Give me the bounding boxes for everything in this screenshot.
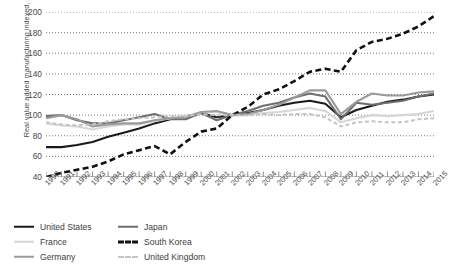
legend-item[interactable]: United States bbox=[14, 219, 122, 234]
legend-label: Germany bbox=[40, 252, 75, 262]
legend-label: United States bbox=[40, 222, 92, 232]
x-axis-tick: 1995 bbox=[120, 169, 138, 187]
legend-item[interactable]: South Korea bbox=[118, 234, 226, 249]
legend-column-2: JapanSouth KoreaUnited Kingdom bbox=[118, 219, 226, 265]
x-axis-tick: 1991 bbox=[58, 169, 76, 187]
x-axis-tick: 1999 bbox=[182, 169, 200, 187]
x-axis-tick: 1992 bbox=[74, 169, 92, 187]
x-axis-tick: 2000 bbox=[198, 169, 216, 187]
legend-label: South Korea bbox=[144, 237, 192, 247]
legend-label: Japan bbox=[144, 222, 167, 232]
x-axis-tick: 2014 bbox=[415, 169, 433, 187]
x-axis-tick: 1990 bbox=[43, 169, 61, 187]
x-axis-tick: 2010 bbox=[353, 169, 371, 187]
legend-column-1: United StatesFranceGermany bbox=[14, 219, 122, 265]
x-axis-tick: 2001 bbox=[213, 169, 231, 187]
legend-label: United Kingdom bbox=[144, 252, 205, 262]
legend-item[interactable]: Japan bbox=[118, 219, 226, 234]
x-axis-tick: 2005 bbox=[275, 169, 293, 187]
x-axis-tick: 2008 bbox=[322, 169, 340, 187]
x-axis-tick: 1998 bbox=[167, 169, 185, 187]
x-axis-tick: 2004 bbox=[260, 169, 278, 187]
x-axis-tick: 2002 bbox=[229, 169, 247, 187]
legend-item[interactable]: Germany bbox=[14, 249, 122, 264]
legend-item[interactable]: France bbox=[14, 234, 122, 249]
x-axis-tick: 2012 bbox=[384, 169, 402, 187]
x-axis-tick: 1994 bbox=[105, 169, 123, 187]
x-axis-tick: 2007 bbox=[306, 169, 324, 187]
x-axis-tick: 2015 bbox=[431, 169, 449, 187]
x-axis-tick: 2009 bbox=[337, 169, 355, 187]
x-axis-tick: 2011 bbox=[368, 169, 386, 187]
x-axis-tick: 2013 bbox=[399, 169, 417, 187]
legend-item[interactable]: United Kingdom bbox=[118, 249, 226, 264]
x-axis-tick: 1996 bbox=[136, 169, 154, 187]
x-axis-tick: 2006 bbox=[291, 169, 309, 187]
chart-legend: United StatesFranceGermany JapanSouth Ko… bbox=[14, 219, 244, 265]
legend-label: France bbox=[40, 237, 67, 247]
x-axis-tick: 1993 bbox=[89, 169, 107, 187]
x-axis-tick: 1997 bbox=[151, 169, 169, 187]
x-axis-tick: 2003 bbox=[244, 169, 262, 187]
